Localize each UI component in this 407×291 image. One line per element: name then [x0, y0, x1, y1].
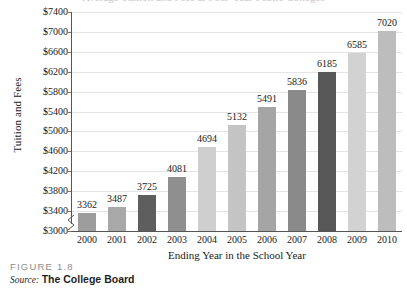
y-axis-tick-label: $7400 [43, 7, 68, 17]
source-name: The College Board [42, 273, 135, 285]
bar-slot: 3725 [138, 5, 157, 231]
bar-slot: 4081 [168, 5, 187, 231]
bar-value-label: 6585 [347, 40, 367, 50]
y-axis-tick-label: $6200 [43, 67, 68, 77]
y-axis-title: Tuition and Fees [11, 50, 23, 180]
bar[interactable] [348, 53, 367, 231]
bar-value-label: 5836 [287, 77, 307, 87]
bar[interactable] [138, 195, 157, 231]
bar-value-label: 4694 [197, 134, 217, 144]
y-axis-tick-label: $5800 [43, 87, 68, 97]
figure-number: FIGURE 1.8 [10, 261, 240, 273]
figure-source: Source: The College Board [10, 273, 240, 287]
bar-slot: 6585 [348, 5, 367, 231]
x-axis-tick-label: 2005 [227, 234, 247, 245]
chart-plot-area: Tuition and Fees $3000$3400$3800$4200$46… [0, 5, 407, 245]
bar-slot: 5836 [288, 5, 307, 231]
x-axis-tick-label: 2003 [167, 234, 187, 245]
bar[interactable] [378, 31, 397, 231]
bar-value-label: 3362 [77, 200, 97, 210]
x-axis-tick-label: 2007 [287, 234, 307, 245]
x-axis-tick-label: 2009 [347, 234, 367, 245]
bar-slot: 3487 [108, 5, 127, 231]
bar-value-label: 4081 [167, 164, 187, 174]
y-axis-tick-label: $6600 [43, 47, 68, 57]
bar-value-label: 7020 [377, 18, 397, 28]
bar[interactable] [108, 207, 127, 231]
bar-slot: 5132 [228, 5, 247, 231]
x-axis-tick-label: 2006 [257, 234, 277, 245]
x-axis-tick-label: 2000 [77, 234, 97, 245]
bar-value-label: 3487 [107, 194, 127, 204]
bar-slot: 5491 [258, 5, 277, 231]
y-axis-tick-label: $3800 [43, 186, 68, 196]
bar-value-label: 6185 [317, 59, 337, 69]
x-axis-tick-label: 2004 [197, 234, 217, 245]
bar[interactable] [78, 213, 97, 231]
x-axis-tick-label: 2008 [317, 234, 337, 245]
bar[interactable] [318, 72, 337, 231]
bar[interactable] [228, 125, 247, 231]
bar[interactable] [168, 177, 187, 231]
y-axis-tick-label: $4600 [43, 146, 68, 156]
bar[interactable] [198, 147, 217, 231]
clipped-chart-title-text: Average Tuition and Fees at Four-Year Pu… [0, 0, 407, 3]
y-axis-tick-label: $5400 [43, 107, 68, 117]
bar-slot: 7020 [378, 5, 397, 231]
bar-value-label: 5132 [227, 112, 247, 122]
x-axis-tick-labels: 2000200120022003200420052006200720082009… [72, 234, 402, 248]
x-axis-title: Ending Year in the School Year [72, 249, 402, 261]
y-axis-tick-label: $5000 [43, 126, 68, 136]
y-axis-tick-label: $7000 [43, 27, 68, 37]
y-axis-tick-labels: $3000$3400$3800$4200$4600$5000$5400$5800… [24, 5, 70, 232]
bar-slot: 4694 [198, 5, 217, 231]
x-axis-line [71, 231, 402, 232]
bar[interactable] [258, 107, 277, 231]
y-axis-tick-label: $4200 [43, 166, 68, 176]
figure-container: Average Tuition and Fees at Four-Year Pu… [0, 0, 407, 291]
x-axis-tick-label: 2002 [137, 234, 157, 245]
figure-caption: FIGURE 1.8 Source: The College Board [10, 261, 240, 287]
bar-slot: 6185 [318, 5, 337, 231]
bar-value-label: 5491 [257, 94, 277, 104]
x-axis-tick-label: 2010 [377, 234, 397, 245]
bar-value-label: 3725 [137, 182, 157, 192]
bar[interactable] [288, 90, 307, 231]
source-prefix: Source: [10, 275, 39, 285]
x-axis-tick-label: 2001 [107, 234, 127, 245]
bars-group: 3362348737254081469451325491583661856585… [72, 5, 402, 231]
bar-slot: 3362 [78, 5, 97, 231]
